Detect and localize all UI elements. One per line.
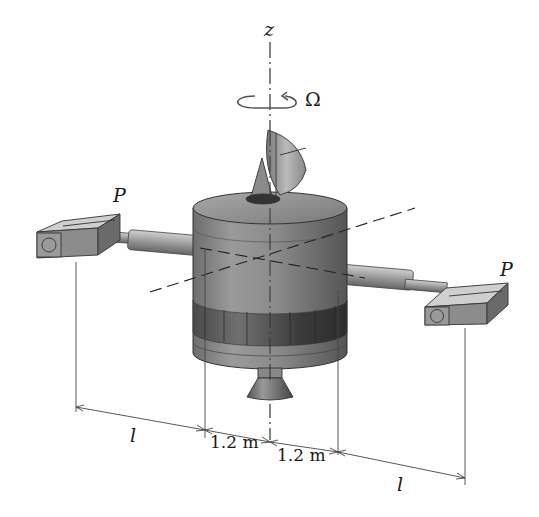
right-radius-label: 1.2 m [277, 445, 326, 465]
right-load-label: P [500, 258, 513, 280]
spin-rate-label: Ω [305, 88, 321, 110]
left-radius-label: 1.2 m [210, 432, 259, 452]
satellite-diagram: z Ω P P l 1.2 m 1.2 m l [0, 0, 539, 517]
satellite-drawing [0, 0, 539, 517]
z-axis-label: z [264, 18, 274, 40]
right-arm-length-label: l [397, 473, 403, 495]
right-arm [334, 264, 447, 293]
left-load-label: P [113, 184, 126, 206]
left-end-mass [37, 214, 120, 258]
left-arm-length-label: l [130, 424, 136, 446]
spin-arrow-icon [238, 92, 297, 108]
